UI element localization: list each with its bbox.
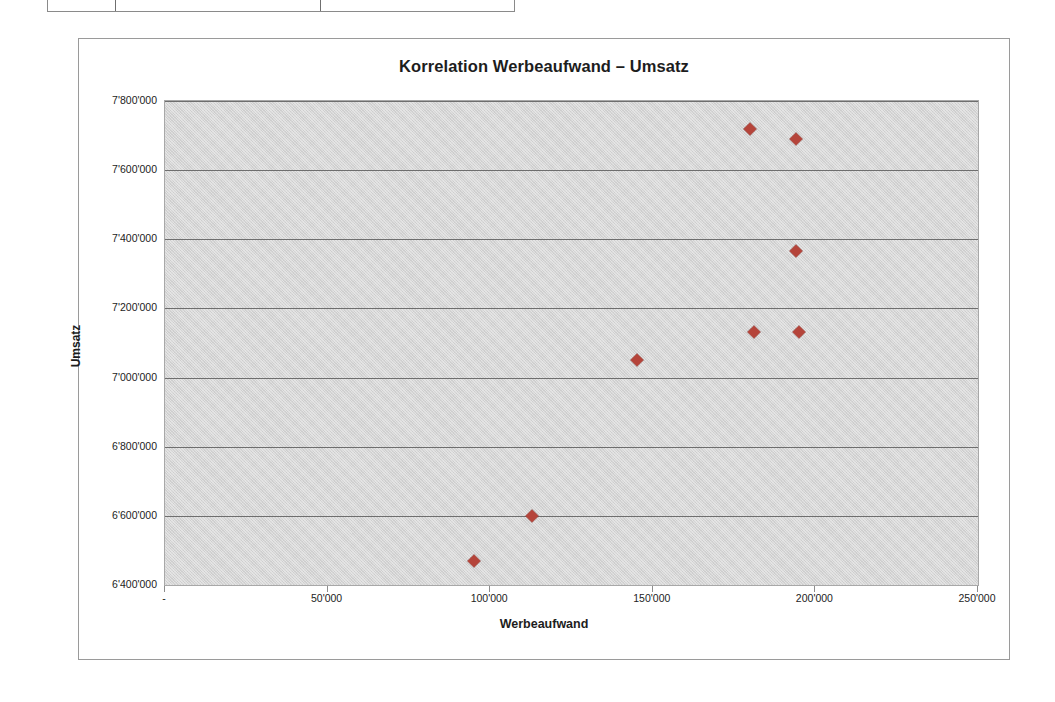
data-point xyxy=(747,325,760,338)
data-point xyxy=(744,123,757,136)
x-axis-tick-mark xyxy=(977,586,978,592)
data-point xyxy=(526,509,539,522)
x-axis-tick-label: 100'000 xyxy=(471,592,508,604)
data-point xyxy=(790,133,803,146)
x-axis-tick-label: 50'000 xyxy=(311,592,342,604)
data-point xyxy=(793,325,806,338)
table-cell xyxy=(48,0,116,11)
y-axis-tick-label: 6'600'000 xyxy=(112,509,157,521)
chart-title: Korrelation Werbeaufwand – Umsatz xyxy=(79,57,1009,76)
x-axis-tick-mark xyxy=(814,586,815,592)
y-axis-tick-label: 7'400'000 xyxy=(112,232,157,244)
x-axis-tick-labels: -50'000100'000150'000200'000250'000 xyxy=(164,592,979,610)
gridline xyxy=(165,170,978,171)
x-axis-tick-label: 250'000 xyxy=(958,592,995,604)
y-axis-tick-label: 7'200'000 xyxy=(112,301,157,313)
x-axis-tick-label: 200'000 xyxy=(796,592,833,604)
y-axis-tick-label: 7'800'000 xyxy=(112,94,157,106)
y-axis-tick-label: 6'400'000 xyxy=(112,578,157,590)
x-axis-tick-mark xyxy=(327,586,328,592)
x-axis-title: Werbeaufwand xyxy=(79,617,1009,631)
y-axis-tick-label: 6'800'000 xyxy=(112,440,157,452)
plot-texture xyxy=(165,101,978,585)
x-axis-tick-mark xyxy=(164,586,165,592)
data-point xyxy=(790,244,803,257)
plot-area xyxy=(164,100,979,586)
table-cell xyxy=(116,0,321,11)
x-axis-tick-mark xyxy=(652,586,653,592)
data-point xyxy=(468,554,481,567)
x-axis-tick-label: 150'000 xyxy=(633,592,670,604)
gridline xyxy=(165,239,978,240)
table-fragment xyxy=(47,0,515,12)
gridline xyxy=(165,308,978,309)
y-axis-tick-label: 7'000'000 xyxy=(112,371,157,383)
gridline xyxy=(165,101,978,102)
gridline xyxy=(165,516,978,517)
gridline xyxy=(165,447,978,448)
table-cell xyxy=(321,0,514,11)
y-axis-tick-labels: 6'400'0006'600'0006'800'0007'000'0007'20… xyxy=(79,100,157,586)
x-axis-tick-mark xyxy=(489,586,490,592)
y-axis-tick-label: 7'600'000 xyxy=(112,163,157,175)
data-point xyxy=(630,354,643,367)
chart-container: Korrelation Werbeaufwand – Umsatz Umsatz… xyxy=(78,38,1010,660)
gridline xyxy=(165,378,978,379)
x-axis-tick-label: - xyxy=(162,592,166,604)
